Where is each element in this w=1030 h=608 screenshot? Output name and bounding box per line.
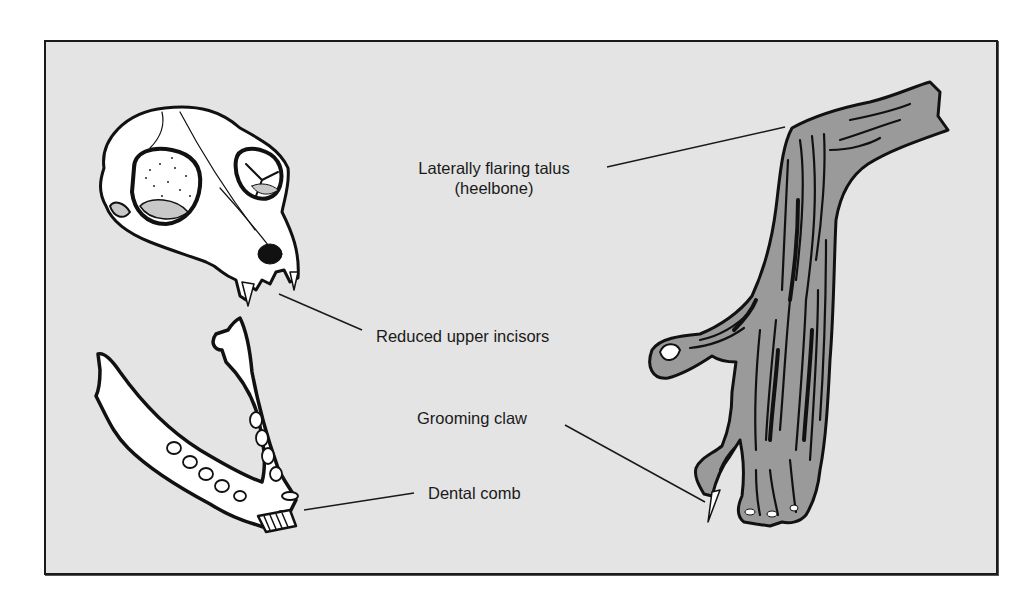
incisors-label: Reduced upper incisors	[376, 326, 549, 346]
leader-line-grooming-claw	[565, 425, 705, 502]
dental-comb-label: Dental comb	[428, 483, 521, 503]
talus-label-line2: (heelbone)	[391, 178, 597, 198]
foot-illustration	[650, 82, 948, 526]
skull-illustration	[101, 107, 299, 306]
leader-line-talus	[607, 127, 785, 167]
illustration-layer	[0, 0, 1030, 608]
talus-label: Laterally flaring talus (heelbone)	[391, 158, 597, 198]
talus-label-line1: Laterally flaring talus	[391, 158, 597, 178]
grooming-claw-label: Grooming claw	[417, 408, 527, 428]
mandible-illustration	[96, 318, 298, 532]
leader-line-dental-comb	[304, 493, 414, 510]
leader-line-incisors	[279, 294, 362, 330]
